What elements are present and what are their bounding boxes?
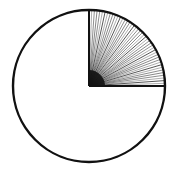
pie-chart (0, 0, 176, 177)
